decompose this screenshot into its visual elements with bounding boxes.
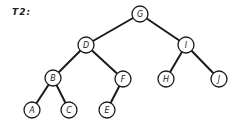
- tree-node-b: B: [45, 70, 61, 86]
- tree-node-g: G: [132, 6, 148, 22]
- tree-node-c: C: [61, 102, 77, 118]
- node-label: B: [50, 74, 56, 83]
- tree-node-j: J: [211, 71, 227, 87]
- node-label: A: [28, 106, 34, 115]
- binary-tree-diagram: GDIBFHJACE: [0, 0, 234, 127]
- node-label: H: [163, 75, 169, 84]
- node-label: D: [83, 41, 89, 50]
- edge-g-d: [86, 14, 140, 45]
- tree-node-e: E: [99, 102, 115, 118]
- tree-node-d: D: [78, 37, 94, 53]
- tree-node-h: H: [158, 71, 174, 87]
- node-label: C: [66, 106, 72, 115]
- tree-node-a: A: [24, 102, 40, 118]
- tree-node-i: I: [178, 37, 194, 53]
- tree-node-f: F: [115, 71, 131, 87]
- node-label: G: [137, 10, 143, 19]
- node-label: F: [121, 75, 126, 84]
- tree-edges: [32, 14, 219, 110]
